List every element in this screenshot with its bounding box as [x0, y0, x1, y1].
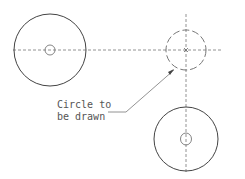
drawing-canvas: Circle to be drawn: [0, 0, 245, 179]
annotation-line-2: be drawn: [57, 111, 105, 122]
leader-line: [108, 70, 174, 112]
annotation-line-1: Circle to: [57, 99, 111, 110]
